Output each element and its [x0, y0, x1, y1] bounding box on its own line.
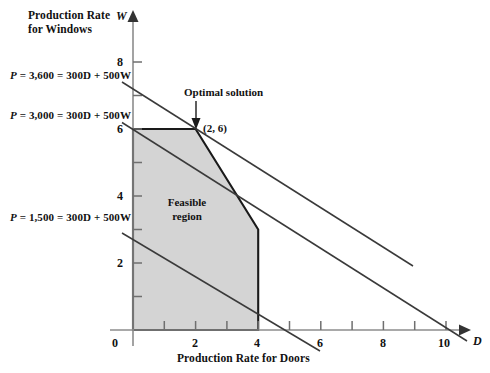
origin-tick-label: 0 — [112, 336, 118, 350]
x-axis-arrow-icon — [459, 325, 471, 336]
y-tick-label-4: 4 — [117, 189, 123, 203]
optimal-solution-arrow-icon — [192, 118, 201, 130]
y-tick-label-2: 2 — [117, 256, 123, 270]
feasible-region-label-line1: Feasible — [151, 196, 223, 210]
optimal-point-label: (2, 6) — [203, 122, 227, 135]
y-tick-label-6: 6 — [117, 122, 123, 136]
x-axis-title: Production Rate for Doors — [177, 352, 310, 366]
y-axis-arrow-icon — [128, 10, 139, 22]
graphical-lp-figure: Production Rate for Windows W Production… — [0, 0, 490, 373]
optimal-solution-label: Optimal solution — [184, 86, 263, 99]
feasible-region-shape — [133, 129, 258, 330]
y-axis-title-line2: for Windows — [28, 23, 92, 37]
x-axis-variable-label: D — [473, 334, 482, 348]
plot-canvas — [0, 0, 490, 373]
feasible-region-label-line2: region — [151, 210, 223, 224]
y-axis-title-line1: Production Rate — [28, 9, 110, 23]
x-tick-label-8: 8 — [380, 336, 386, 350]
x-tick-label-4: 4 — [254, 336, 260, 350]
objective-label-3000: P = 3,000 = 300D + 500W — [10, 109, 131, 122]
y-axis-variable-label: W — [116, 9, 127, 23]
x-tick-label-6: 6 — [317, 336, 323, 350]
objective-label-3600: P = 3,600 = 300D + 500W — [10, 69, 131, 82]
x-tick-label-10: 10 — [438, 336, 450, 350]
objective-label-1500: P = 1,500 = 300D + 500W — [10, 211, 131, 224]
x-tick-label-2: 2 — [192, 336, 198, 350]
y-tick-label-8: 8 — [117, 55, 123, 69]
